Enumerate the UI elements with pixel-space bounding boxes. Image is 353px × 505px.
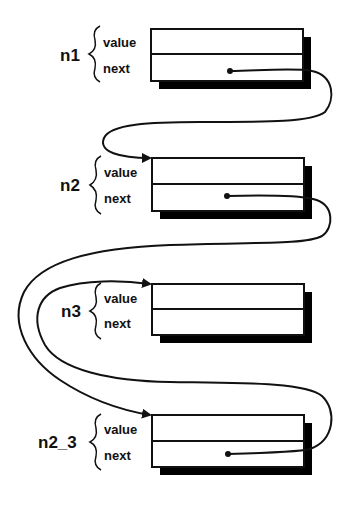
field-label-next: next [104,448,131,463]
linked-list-diagram: n1 value next n2 value next n3 value nex… [0,0,353,505]
field-label-next: next [103,61,130,76]
field-label-value: value [104,291,137,306]
node-name: n2 [60,176,80,195]
field-label-next: next [104,316,131,331]
node-n2: n2 value next [60,156,312,219]
brace-icon [89,26,100,82]
node-name: n2_3 [38,433,77,452]
field-label-next: next [104,191,131,206]
field-label-value: value [104,165,137,180]
brace-icon [90,283,101,339]
field-label-value: value [103,35,136,50]
node-n3: n3 value next [61,283,312,343]
node-name: n3 [61,302,81,321]
brace-icon [90,414,101,470]
brace-icon [90,156,101,214]
node-n2_3: n2_3 value next [38,414,312,475]
node-name: n1 [60,46,80,65]
field-label-value: value [104,422,137,437]
node-n1: n1 value next [60,26,311,89]
